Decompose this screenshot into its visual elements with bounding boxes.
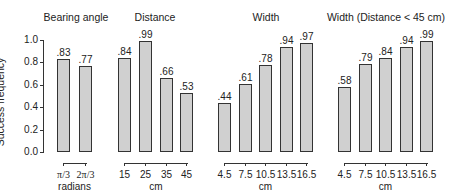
y-tick <box>40 62 43 63</box>
bar-value-label: .61 <box>233 73 258 83</box>
bar <box>218 103 231 152</box>
x-axis-line <box>125 163 188 164</box>
x-tick-label: 16.5 <box>412 170 442 180</box>
y-tick-label: 1.0 <box>14 35 38 45</box>
x-axis-line <box>63 163 87 164</box>
bar <box>420 41 433 152</box>
bar <box>280 47 293 152</box>
panel-title: Width <box>196 11 336 23</box>
bar <box>300 43 313 152</box>
bar-value-label: .99 <box>133 30 158 40</box>
y-tick-label: 0.8 <box>14 57 38 67</box>
y-tick <box>40 40 43 41</box>
x-tick-label: 45 <box>172 170 202 180</box>
bar-value-label: .97 <box>294 32 319 42</box>
bar-value-label: .53 <box>174 82 199 92</box>
y-tick-label: 0.2 <box>14 125 38 135</box>
y-tick-label: 0.6 <box>14 80 38 90</box>
bar <box>57 59 70 152</box>
y-tick-label: 0.4 <box>14 102 38 112</box>
y-axis-line <box>43 40 44 153</box>
bar-value-label: .84 <box>373 47 398 57</box>
y-tick <box>40 152 43 153</box>
bar <box>400 47 413 152</box>
x-tick-label: 2π/3 <box>71 170 101 180</box>
y-tick <box>40 85 43 86</box>
x-axis-unit: cm <box>126 182 186 192</box>
y-tick <box>40 107 43 108</box>
x-axis-unit: cm <box>356 182 416 192</box>
bar-value-label: .99 <box>414 30 439 40</box>
bar-value-label: .66 <box>154 67 179 77</box>
bar-value-label: .84 <box>112 47 137 57</box>
x-axis-unit: cm <box>236 182 296 192</box>
panel-title: Width (Distance < 45 cm) <box>316 11 453 23</box>
y-axis-label: Success frequency <box>0 52 6 152</box>
bar <box>160 78 173 152</box>
bar <box>338 87 351 152</box>
x-axis-line <box>344 163 428 164</box>
bar-value-label: .58 <box>332 76 357 86</box>
y-tick-label: 0.0 <box>14 147 38 157</box>
bar-value-label: .44 <box>212 92 237 102</box>
bar-value-label: .78 <box>253 54 278 64</box>
bar <box>118 58 131 152</box>
y-tick <box>40 130 43 131</box>
bar <box>180 93 193 152</box>
bar-value-label: .77 <box>73 55 98 65</box>
x-axis-line <box>224 163 308 164</box>
bar <box>139 41 152 152</box>
x-tick-label: 16.5 <box>292 170 322 180</box>
bar <box>79 66 92 152</box>
bar <box>259 65 272 152</box>
x-axis-unit: radians <box>45 182 105 192</box>
bar <box>359 64 372 152</box>
bar <box>239 84 252 152</box>
bar <box>379 58 392 152</box>
